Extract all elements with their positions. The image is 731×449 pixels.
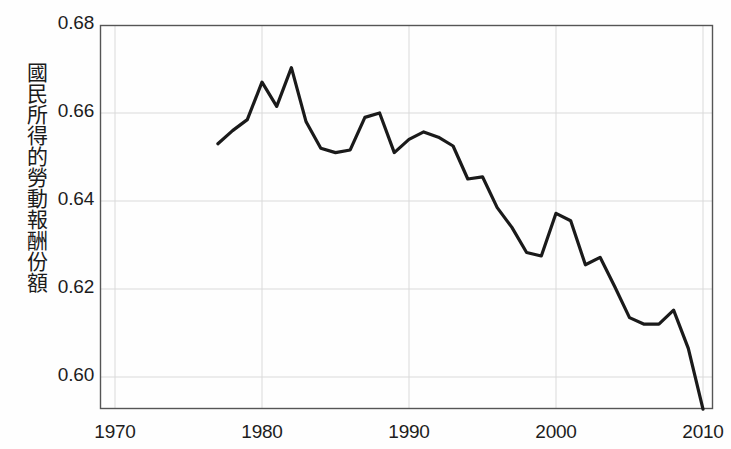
plot-area (0, 0, 731, 449)
gridlines (101, 26, 713, 409)
plot-frame (101, 26, 713, 409)
data-line-labor-share (218, 68, 703, 409)
chart-figure: 國民所得的勞動報酬份額 0.600.620.640.660.68 1970198… (0, 0, 731, 449)
